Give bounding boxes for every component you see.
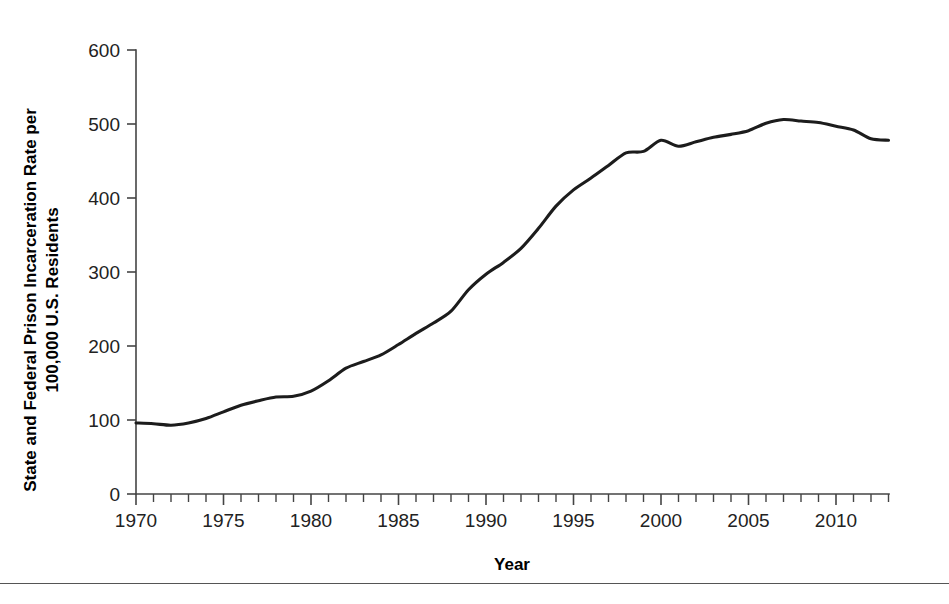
x-axis-title: Year	[494, 555, 530, 574]
x-tick-label: 1985	[377, 510, 419, 531]
y-tick-label: 500	[88, 114, 120, 135]
y-tick-label: 600	[88, 40, 120, 61]
x-tick-label: 1980	[290, 510, 332, 531]
x-tick-label: 1970	[115, 510, 157, 531]
x-axis-minor-ticks	[136, 494, 889, 505]
chart-figure: State and Federal Prison Incarceration R…	[0, 0, 949, 604]
x-tick-label: 2005	[727, 510, 769, 531]
y-axis-title-line2: 100,000 U.S. Residents	[43, 207, 62, 392]
y-tick-label: 300	[88, 262, 120, 283]
y-axis-tick-labels: 0100200300400500600	[88, 40, 120, 505]
data-series-line	[136, 120, 889, 426]
x-tick-label: 1990	[465, 510, 507, 531]
y-tick-label: 400	[88, 188, 120, 209]
x-tick-label: 2010	[815, 510, 857, 531]
y-tick-label: 200	[88, 336, 120, 357]
y-tick-label: 0	[109, 484, 120, 505]
x-tick-label: 2000	[640, 510, 682, 531]
footer-divider-rule	[0, 583, 949, 584]
y-axis-title-line1: State and Federal Prison Incarceration R…	[21, 108, 40, 492]
y-tick-label: 100	[88, 410, 120, 431]
x-tick-label: 1995	[552, 510, 594, 531]
x-axis-tick-labels: 197019751980198519901995200020052010	[115, 510, 857, 531]
incarceration-rate-line-chart: State and Federal Prison Incarceration R…	[0, 0, 949, 604]
y-axis-ticks	[127, 50, 136, 494]
x-tick-label: 1975	[202, 510, 244, 531]
